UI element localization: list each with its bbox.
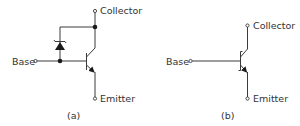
collector-terminal-icon bbox=[246, 24, 249, 27]
base-label: Base bbox=[166, 56, 189, 67]
emitter-terminal-icon bbox=[246, 97, 249, 100]
npn-transistor-icon bbox=[87, 48, 96, 72]
emitter-terminal-icon bbox=[93, 97, 96, 100]
panel-a-caption: (a) bbox=[67, 110, 80, 121]
junction-dot-icon bbox=[58, 59, 63, 64]
circuit-diagram: Collector Base Emitter (a) Collector Bas… bbox=[0, 0, 300, 126]
zener-diode-icon bbox=[54, 40, 66, 50]
emitter-label: Emitter bbox=[253, 93, 288, 104]
panel-b-caption: (b) bbox=[221, 110, 234, 121]
panel-b: Collector Base Emitter (b) bbox=[166, 20, 295, 121]
base-label: Base bbox=[12, 56, 35, 67]
diode-wire bbox=[60, 27, 95, 61]
panel-a: Collector Base Emitter (a) bbox=[12, 5, 142, 121]
collector-terminal-icon bbox=[93, 9, 96, 12]
base-terminal-icon bbox=[189, 59, 192, 62]
collector-label: Collector bbox=[100, 5, 142, 16]
emitter-label: Emitter bbox=[100, 93, 135, 104]
collector-label: Collector bbox=[253, 20, 295, 31]
junction-dot-icon bbox=[93, 25, 98, 30]
